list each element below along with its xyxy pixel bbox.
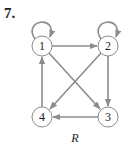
node-1-label: 1: [39, 39, 45, 53]
node-1: 1: [32, 36, 52, 56]
node-2-label: 2: [105, 39, 111, 53]
node-3-label: 3: [105, 110, 111, 124]
node-4-label: 4: [39, 110, 45, 124]
node-2: 2: [98, 36, 118, 56]
relation-digraph: 1 2 3 4 R: [0, 0, 136, 146]
relation-caption: R: [70, 131, 79, 145]
node-4: 4: [32, 107, 52, 127]
node-3: 3: [98, 107, 118, 127]
